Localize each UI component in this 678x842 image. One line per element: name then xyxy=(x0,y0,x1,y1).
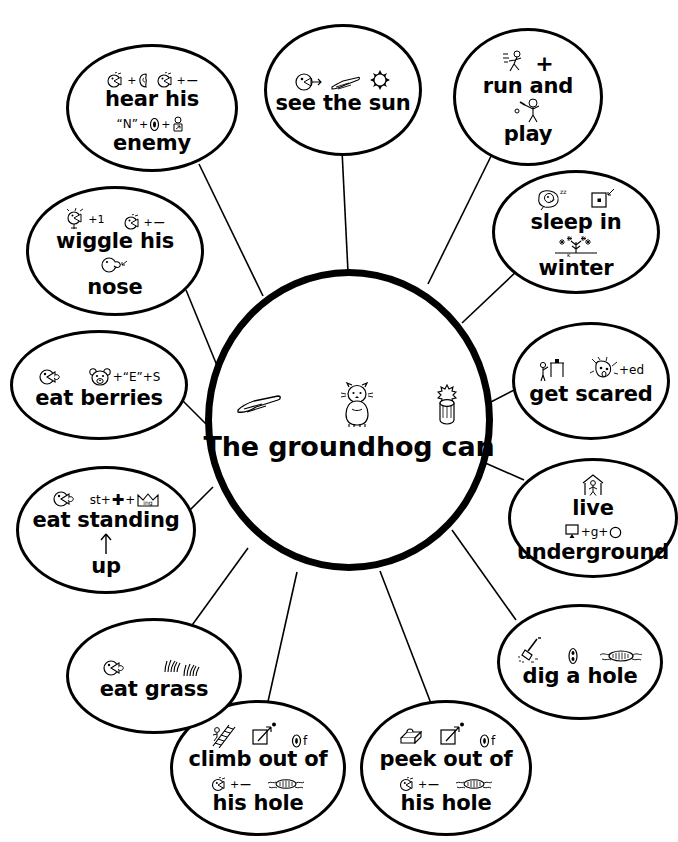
zero-icon xyxy=(479,734,490,748)
rebus-his: +— xyxy=(399,777,439,792)
nose-label: nose xyxy=(87,277,142,298)
spoke-sleep-in-winter xyxy=(462,270,518,323)
enemy-person-icon xyxy=(171,116,187,132)
winter-icon-row: ĸ xyxy=(554,233,598,257)
get-scared-icon-row: +ed xyxy=(538,357,644,383)
rebus-of: f xyxy=(291,734,307,748)
spoke-dig-a-hole xyxy=(452,530,516,620)
spoke-wiggle-his-nose xyxy=(186,290,218,368)
live-icon-row xyxy=(580,473,606,497)
peeking-eyes-icon xyxy=(397,724,425,748)
run-and-icon-row: + xyxy=(502,49,553,75)
eat-berries-icon-row: +“E”+S xyxy=(38,361,161,387)
listening-face-icon xyxy=(399,777,417,792)
climb-icon-row: f xyxy=(209,722,307,748)
grass-icon xyxy=(160,654,206,678)
node-eat-standing-up[interactable]: st+ ✚ + ing eat standing up xyxy=(16,466,196,594)
svg-text:zz: zz xyxy=(560,188,566,195)
dig-a-hole-icon-row xyxy=(517,637,643,665)
get-figure-icon xyxy=(538,357,568,383)
node-live-underground[interactable]: live +g+ underground xyxy=(508,458,678,578)
underground-label: underground xyxy=(517,542,669,563)
underground-icon-row: +g+ xyxy=(564,519,623,541)
listening-face-icon xyxy=(156,72,176,88)
worksheet-canvas: The groundhog can see the sun xyxy=(0,0,678,842)
rebus-wiggle: +1 xyxy=(65,208,104,230)
play-label: play xyxy=(504,124,553,145)
ear-icon xyxy=(138,73,149,88)
zero-icon xyxy=(291,734,302,748)
listening-face-icon xyxy=(211,777,229,792)
get-scared-label: get scared xyxy=(529,384,652,405)
wiggle-his-label: wiggle his xyxy=(56,231,174,252)
node-hear-his-enemy[interactable]: + +— hear his “N”+ xyxy=(66,44,238,172)
node-eat-berries[interactable]: +“E”+S eat berries xyxy=(10,330,188,440)
up-label: up xyxy=(91,556,121,577)
enemy-label: enemy xyxy=(113,133,191,154)
letter-a-icon xyxy=(567,647,579,665)
scared-face-icon xyxy=(590,357,618,383)
hear-his-label: hear his xyxy=(105,89,199,110)
node-get-scared[interactable]: +ed get scared xyxy=(512,322,670,440)
rebus-standing: st+ ✚ + ing xyxy=(90,491,161,509)
ball-player-icon xyxy=(513,97,543,123)
peek-his-hole-label: his hole xyxy=(400,793,491,814)
eat-standing-label: eat standing xyxy=(32,510,179,531)
wiggle-his-icon-row: +1 +— xyxy=(65,204,164,230)
rebus-his: +— xyxy=(123,214,165,230)
running-figure-icon xyxy=(502,49,528,75)
shovel-icon xyxy=(517,637,547,665)
rebus-his: +— xyxy=(156,72,198,88)
eating-mouth-icon xyxy=(38,367,62,387)
sleep-in-label: sleep in xyxy=(530,212,621,233)
rebus-underground: +g+ xyxy=(564,523,623,541)
groundhog-icon xyxy=(340,382,374,428)
up-arrow-icon xyxy=(98,531,114,555)
out-arrow-icon xyxy=(439,722,465,748)
winter-label: winter xyxy=(539,258,614,279)
ladder-icon xyxy=(209,722,237,748)
hole-icon xyxy=(599,647,643,665)
peek-out-of-label: peek out of xyxy=(380,749,513,770)
center-node: The groundhog can xyxy=(205,269,493,571)
ing-crown-icon: ing xyxy=(136,492,160,508)
sleep-in-icon-row: zz xyxy=(536,185,616,211)
node-see-the-sun[interactable]: see the sun xyxy=(264,24,422,156)
eye-icon xyxy=(294,72,324,92)
climb-his-hole-label: his hole xyxy=(212,793,303,814)
see-the-sun-icon-row xyxy=(294,66,392,92)
node-eat-grass[interactable]: eat grass xyxy=(66,618,242,734)
eat-grass-icon-row xyxy=(102,652,206,678)
his-hole-icon-row-peek: +— xyxy=(399,770,493,792)
node-wiggle-his-nose[interactable]: +1 +— wiggle his nose xyxy=(26,186,204,316)
node-run-and-play[interactable]: + run and play xyxy=(453,28,603,166)
eat-grass-label: eat grass xyxy=(100,679,209,700)
spoke-climb-out-of xyxy=(267,572,297,706)
node-peek-out-of-his-hole[interactable]: f peek out of +— his hole xyxy=(360,700,532,836)
enemy-icon-row: “N”+ + xyxy=(117,110,188,132)
under-box-icon xyxy=(564,523,580,541)
spoke-peek-out-of xyxy=(380,571,432,706)
nose-face-icon xyxy=(99,254,131,276)
rebus-berries: +“E”+S xyxy=(88,367,161,387)
see-the-sun-label: see the sun xyxy=(275,93,410,114)
his-hole-icon-row-climb: +— xyxy=(211,770,305,792)
bush-stump-icon xyxy=(432,383,462,427)
snow-tree-icon: ĸ xyxy=(554,233,598,257)
live-label: live xyxy=(572,498,614,519)
climb-out-of-label: climb out of xyxy=(189,749,328,770)
dig-a-hole-label: dig a hole xyxy=(523,666,638,687)
pointing-hand-icon xyxy=(331,76,361,92)
node-sleep-in-winter[interactable]: zz sleep in ĸ wint xyxy=(492,170,660,294)
peek-icon-row: f xyxy=(397,722,495,748)
rebus-scared: +ed xyxy=(590,357,644,383)
listening-face-icon xyxy=(106,72,126,88)
hear-his-icon-row: + +— xyxy=(106,62,197,88)
eat-berries-label: eat berries xyxy=(35,388,163,409)
zero-icon xyxy=(149,118,160,131)
hole-icon xyxy=(267,776,305,792)
node-dig-a-hole[interactable]: dig a hole xyxy=(497,604,663,720)
circle-icon xyxy=(609,526,622,539)
rebus-his: +— xyxy=(211,777,251,792)
rebus-of: f xyxy=(479,734,495,748)
